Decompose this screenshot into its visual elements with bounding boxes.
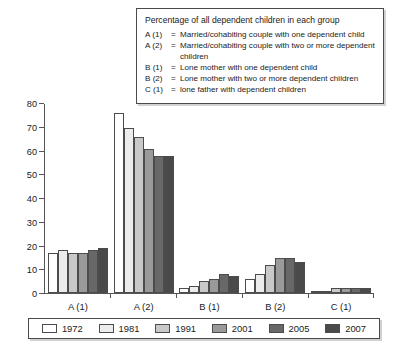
bar-group-b2: B (2) — [242, 104, 308, 293]
key-description: Married/cohabiting couple with two or mo… — [180, 41, 376, 62]
key-equals: = — [171, 63, 180, 73]
legend-label: 2001 — [232, 323, 253, 334]
bar[interactable] — [245, 279, 255, 293]
bar[interactable] — [199, 281, 209, 293]
key-row: B (2) = Lone mother with two or more dep… — [145, 74, 376, 84]
bar[interactable] — [351, 288, 361, 293]
bar[interactable] — [321, 291, 331, 293]
key-description: Married/cohabiting couple with one depen… — [180, 30, 376, 40]
bar[interactable] — [98, 248, 108, 293]
chart-legend: 197219811991200120052007 — [28, 318, 380, 339]
bar[interactable] — [134, 137, 144, 293]
x-axis-tick — [242, 293, 243, 298]
y-axis-tick-label: 30 — [27, 218, 37, 228]
bar[interactable] — [164, 156, 174, 293]
legend-swatch — [42, 324, 57, 333]
key-description: lone father with dependent children — [180, 85, 376, 95]
bar[interactable] — [311, 291, 321, 293]
y-axis-tick — [39, 222, 44, 223]
bar[interactable] — [209, 279, 219, 293]
bar-chart-plot-area: 01020304050607080 A (1)A (2)B (1)B (2)C … — [44, 104, 374, 294]
legend-item-1991[interactable]: 1991 — [155, 323, 196, 334]
bar-group-c1: C (1) — [308, 104, 374, 293]
bar-group-a1: A (1) — [45, 104, 111, 293]
bar[interactable] — [361, 288, 371, 293]
legend-label: 1991 — [175, 323, 196, 334]
bar[interactable] — [295, 262, 305, 293]
key-equals: = — [171, 41, 180, 62]
y-axis-tick-label: 0 — [32, 289, 37, 299]
bar[interactable] — [154, 156, 164, 293]
legend-swatch — [212, 324, 227, 333]
x-axis-tick — [308, 293, 309, 298]
y-axis-tick-label: 40 — [27, 194, 37, 204]
x-axis-line — [44, 293, 374, 294]
y-axis-tick — [39, 127, 44, 128]
x-axis-tick-label: A (2) — [111, 301, 177, 312]
chart-key-box: Percentage of all dependent children in … — [136, 8, 384, 104]
bar[interactable] — [68, 253, 78, 293]
bar[interactable] — [124, 128, 134, 293]
chart-key-title: Percentage of all dependent children in … — [145, 15, 376, 26]
key-row: B (1) = Lone mother with one dependent c… — [145, 63, 376, 73]
key-code: A (1) — [145, 30, 171, 40]
x-axis-tick-label: C (1) — [308, 301, 374, 312]
bar[interactable] — [144, 149, 154, 293]
bar[interactable] — [275, 258, 285, 293]
chart-page: Percentage of all dependent children in … — [0, 0, 400, 356]
bar-group-b1: B (1) — [177, 104, 243, 293]
legend-item-2007[interactable]: 2007 — [325, 323, 366, 334]
bar-group-a2: A (2) — [111, 104, 177, 293]
legend-item-2001[interactable]: 2001 — [212, 323, 253, 334]
y-axis-tick — [39, 151, 44, 152]
bar[interactable] — [255, 274, 265, 293]
x-axis-tick — [176, 293, 177, 298]
legend-item-1972[interactable]: 1972 — [42, 323, 83, 334]
legend-label: 1972 — [62, 323, 83, 334]
key-equals: = — [171, 30, 180, 40]
legend-label: 2005 — [289, 323, 310, 334]
key-row: A (2) = Married/cohabiting couple with t… — [145, 41, 376, 62]
legend-swatch — [99, 324, 114, 333]
bar[interactable] — [285, 258, 295, 293]
bar[interactable] — [114, 113, 124, 293]
legend-label: 1981 — [119, 323, 140, 334]
bar[interactable] — [189, 286, 199, 293]
bar[interactable] — [58, 250, 68, 293]
key-code: B (1) — [145, 63, 171, 73]
bar-groups: A (1)A (2)B (1)B (2)C (1) — [45, 104, 374, 293]
bar[interactable] — [219, 274, 229, 293]
y-axis-tick-label: 80 — [27, 99, 37, 109]
bar[interactable] — [265, 265, 275, 293]
x-axis-tick-label: B (1) — [177, 301, 243, 312]
legend-swatch — [269, 324, 284, 333]
bar[interactable] — [78, 253, 88, 293]
legend-label: 2007 — [345, 323, 366, 334]
key-row: C (1) = lone father with dependent child… — [145, 85, 376, 95]
key-code: A (2) — [145, 41, 171, 62]
bar[interactable] — [341, 288, 351, 293]
bar[interactable] — [331, 288, 341, 293]
y-axis-tick — [39, 103, 44, 104]
key-code: C (1) — [145, 85, 171, 95]
y-axis-tick — [39, 246, 44, 247]
legend-item-1981[interactable]: 1981 — [99, 323, 140, 334]
x-axis-tick-label: A (1) — [45, 301, 111, 312]
y-axis-tick — [39, 269, 44, 270]
bar[interactable] — [229, 276, 239, 293]
key-equals: = — [171, 74, 180, 84]
bar[interactable] — [48, 253, 58, 293]
bar[interactable] — [179, 288, 189, 293]
key-code: B (2) — [145, 74, 171, 84]
y-axis-tick-label: 70 — [27, 123, 37, 133]
key-description: Lone mother with one dependent child — [180, 63, 376, 73]
key-row: A (1) = Married/cohabiting couple with o… — [145, 30, 376, 40]
y-axis-tick-label: 20 — [27, 242, 37, 252]
legend-swatch — [325, 324, 340, 333]
bar[interactable] — [88, 250, 98, 293]
y-axis-tick-label: 60 — [27, 147, 37, 157]
legend-swatch — [155, 324, 170, 333]
y-axis-tick — [39, 198, 44, 199]
y-axis-tick-label: 10 — [27, 265, 37, 275]
legend-item-2005[interactable]: 2005 — [269, 323, 310, 334]
